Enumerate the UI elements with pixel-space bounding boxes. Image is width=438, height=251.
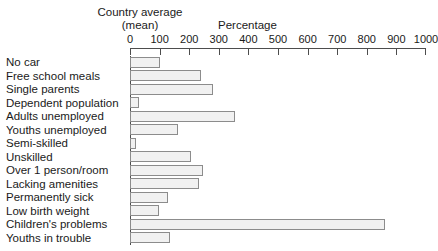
bar — [130, 138, 136, 149]
bar-row — [130, 151, 426, 165]
bar-row — [130, 70, 426, 84]
bar-row — [130, 218, 426, 232]
x-tick-mark — [219, 49, 220, 55]
category-label: Single parents — [6, 83, 128, 97]
x-tick-mark — [425, 49, 426, 55]
bar — [130, 151, 191, 162]
x-tick-mark — [367, 49, 368, 55]
bar-row — [130, 232, 426, 246]
category-label: Children's problems — [6, 218, 128, 232]
bar — [130, 57, 160, 68]
x-tick-label: 400 — [239, 33, 257, 46]
bar — [130, 219, 385, 230]
country-average-title: Country average (mean) — [88, 6, 192, 32]
category-label: Youths in trouble — [6, 232, 128, 246]
bar-row — [130, 178, 426, 192]
x-tick-label: 300 — [210, 33, 228, 46]
bar-series — [130, 56, 426, 245]
category-label: No car — [6, 56, 128, 70]
x-tick-label: 700 — [328, 33, 346, 46]
plot-area — [130, 56, 426, 245]
x-tick-label: 100 — [150, 33, 168, 46]
x-tick-mark — [308, 49, 309, 55]
x-axis: 01002003004005006007008009001000 — [130, 33, 426, 57]
bar — [130, 165, 203, 176]
x-tick-label: 0 — [127, 33, 133, 46]
category-label: Low birth weight — [6, 205, 128, 219]
bar — [130, 178, 199, 189]
bar — [130, 124, 178, 135]
category-label: Dependent population — [6, 97, 128, 111]
country-average-title-line2: (mean) — [88, 19, 192, 32]
x-tick-mark — [278, 49, 279, 55]
country-average-title-line1: Country average — [97, 6, 182, 18]
x-tick-mark — [160, 49, 161, 55]
bar-row — [130, 97, 426, 111]
category-label: Semi-skilled — [6, 137, 128, 151]
bar-row — [130, 83, 426, 97]
bar-row — [130, 137, 426, 151]
bar — [130, 70, 201, 81]
bar-row — [130, 110, 426, 124]
bar — [130, 205, 159, 216]
bar-row — [130, 164, 426, 178]
bar — [130, 192, 168, 203]
x-tick-label: 600 — [298, 33, 316, 46]
x-tick-mark — [337, 49, 338, 55]
category-label: Unskilled — [6, 151, 128, 165]
category-label: Lacking amenities — [6, 178, 128, 192]
category-label: Free school meals — [6, 70, 128, 84]
bar-row — [130, 191, 426, 205]
x-tick-mark — [396, 49, 397, 55]
x-tick-mark — [130, 49, 131, 55]
bar-row — [130, 56, 426, 70]
bar — [130, 84, 213, 95]
category-label: Adults unemployed — [6, 110, 128, 124]
x-tick-mark — [189, 49, 190, 55]
bar — [130, 111, 235, 122]
x-tick-mark — [248, 49, 249, 55]
percentage-axis-title: Percentage — [218, 19, 277, 32]
bar-row — [130, 124, 426, 138]
x-tick-label: 1000 — [414, 33, 438, 46]
category-labels: No carFree school mealsSingle parentsDep… — [6, 56, 128, 245]
x-tick-label: 900 — [387, 33, 405, 46]
x-axis-tick-labels: 01002003004005006007008009001000 — [130, 33, 426, 46]
x-tick-label: 500 — [269, 33, 287, 46]
bar-row — [130, 205, 426, 219]
bar — [130, 232, 170, 243]
bar — [130, 97, 139, 108]
category-label: Over 1 person/room — [6, 164, 128, 178]
category-label: Permanently sick — [6, 191, 128, 205]
category-label: Youths unemployed — [6, 124, 128, 138]
x-tick-label: 800 — [358, 33, 376, 46]
x-tick-label: 200 — [180, 33, 198, 46]
